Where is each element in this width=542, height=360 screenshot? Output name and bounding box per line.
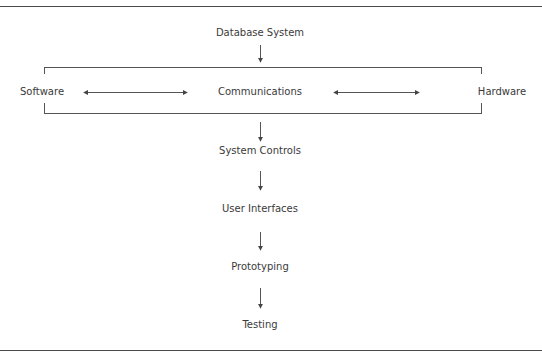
arrows-layer	[0, 0, 542, 360]
